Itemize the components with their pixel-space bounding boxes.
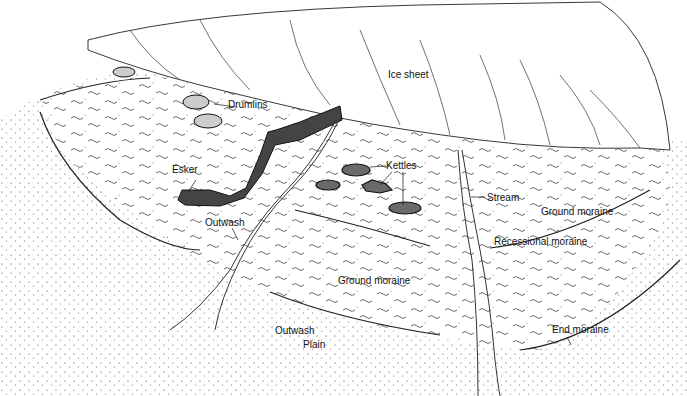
label-outwash: Outwash — [205, 218, 244, 228]
label-drumlins: Drumlins — [228, 100, 267, 110]
diagram-illustration — [0, 0, 687, 396]
glacial-landforms-diagram: Ice sheet Drumlins Esker Outwash Kettles… — [0, 0, 687, 396]
label-outwash-plain-1: Outwash — [275, 326, 314, 336]
kettle-2 — [316, 180, 340, 190]
drumlin-1 — [113, 67, 135, 77]
kettle-4 — [389, 202, 421, 214]
label-ground-moraine-center: Ground moraine — [338, 276, 410, 286]
label-stream: Stream — [487, 193, 519, 203]
kettle-1 — [342, 164, 370, 176]
label-recessional-moraine: Recessional moraine — [494, 237, 587, 247]
drumlin-2 — [183, 95, 209, 109]
label-ice-sheet: Ice sheet — [388, 70, 429, 80]
label-end-moraine: End moraine — [552, 325, 609, 335]
label-ground-moraine-right: Ground moraine — [541, 207, 613, 217]
label-outwash-plain-2: Plain — [303, 340, 325, 350]
drumlin-3 — [194, 114, 222, 128]
label-esker: Esker — [172, 165, 198, 175]
label-kettles: Kettles — [386, 161, 417, 171]
